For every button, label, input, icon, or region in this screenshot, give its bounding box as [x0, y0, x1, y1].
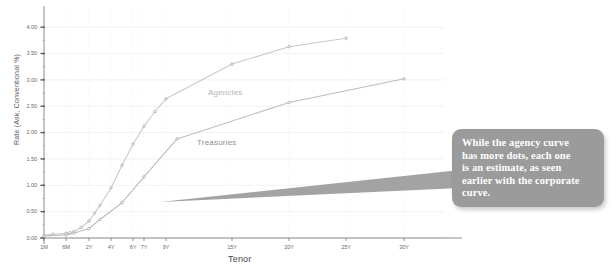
- y-tick-label: 1.00: [11, 182, 37, 188]
- series-label-agencies: Agencies: [208, 88, 243, 97]
- chart-canvas: Rate (Ask, Conventional %) Tenor Agencie…: [0, 0, 616, 277]
- y-tick-label: 4.00: [11, 24, 37, 30]
- x-tick-label: 30Y: [391, 244, 417, 250]
- y-tick-label: 0.00: [11, 235, 37, 241]
- callout-pointer-tail: [160, 168, 460, 210]
- y-tick-label: 3.50: [11, 50, 37, 56]
- x-tick-label: 15Y: [219, 244, 245, 250]
- annotation-callout-text: While the agency curve has more dots, ea…: [462, 137, 595, 200]
- series-label-treasuries: Treasuries: [197, 138, 237, 147]
- y-tick-label: 2.50: [11, 103, 37, 109]
- y-tick-label: 1.50: [11, 156, 37, 162]
- x-tick-label: 25Y: [333, 244, 359, 250]
- y-tick-label: 2.00: [11, 129, 37, 135]
- x-tick-label: 20Y: [276, 244, 302, 250]
- annotation-callout: While the agency curve has more dots, ea…: [452, 129, 604, 207]
- x-tick-label: 9Y: [153, 244, 179, 250]
- y-tick-label: 3.00: [11, 77, 37, 83]
- y-tick-label: 0.50: [11, 208, 37, 214]
- y-axis-title: Rate (Ask, Conventional %): [13, 40, 20, 160]
- x-axis-title: Tenor: [228, 254, 252, 264]
